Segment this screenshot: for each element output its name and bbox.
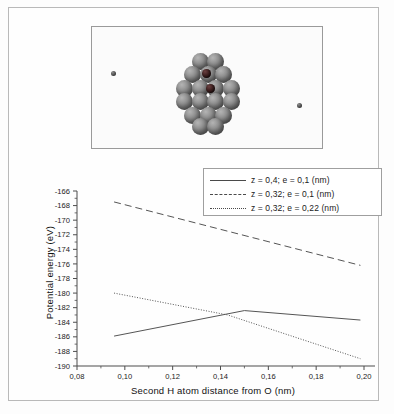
y-tick-label: -172 [55,230,70,239]
y-tick-label: -170 [55,216,70,225]
y-tick-label: -168 [55,201,70,210]
y-tick-label: -182 [55,303,70,312]
atom-sphere [192,118,209,135]
y-tick-label: -178 [55,274,70,283]
hydrogen-atom-center [206,84,215,93]
data-series-2 [114,293,360,359]
y-tick-label: -180 [55,289,70,298]
page-background: z = 0,4; e = 0,1 (nm) z = 0,32; e = 0,1 … [0,0,394,414]
y-tick-label: -184 [55,318,70,327]
molecule-image-panel [91,26,323,149]
y-tick-label: -190 [55,362,70,371]
plot-area: -166-168-170-172-174-176-178-180-182-184… [23,163,383,383]
atom-sphere [207,118,224,135]
y-axis-title: Potential energy (eV) [44,203,55,343]
free-hydrogen-atom-left [111,71,116,76]
data-series-0 [114,311,360,337]
x-tick-label: 0,16 [261,372,276,381]
x-tick-label: 0,10 [117,372,132,381]
x-axis-title: Second H atom distance from O (nm) [63,385,363,396]
x-tick-label: 0,14 [213,372,228,381]
y-tick-label: -188 [55,347,70,356]
oxygen-atom [202,69,211,78]
y-tick-label: -186 [55,332,70,341]
free-hydrogen-atom-right [297,103,302,108]
potential-energy-chart: Potential energy (eV) Second H atom dist… [23,163,383,408]
figure-outer-frame: z = 0,4; e = 0,1 (nm) z = 0,32; e = 0,1 … [8,7,379,401]
data-series-1 [114,202,360,265]
y-tick-label: -174 [55,245,70,254]
y-tick-label: -176 [55,260,70,269]
x-tick-label: 0,18 [309,372,324,381]
x-tick-label: 0,20 [357,372,372,381]
x-tick-label: 0,12 [165,372,180,381]
x-tick-label: 0,08 [70,372,85,381]
y-tick-label: -166 [55,187,70,196]
